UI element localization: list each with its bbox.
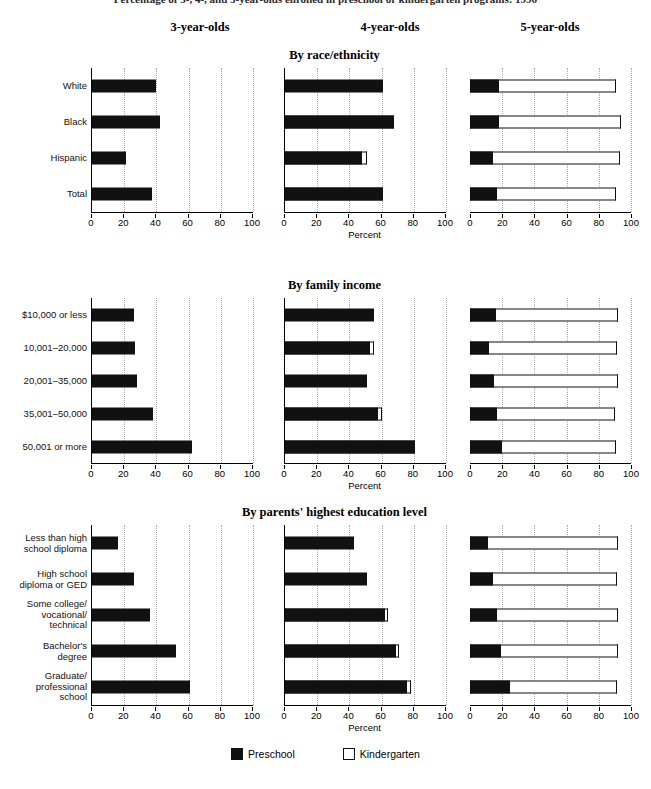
gridline [446, 68, 447, 212]
bar-row [470, 104, 631, 140]
row-label: 35,001–50,000 [24, 408, 87, 419]
plot-area [284, 525, 446, 706]
stacked-bar [470, 645, 618, 658]
axis-tick-label: 80 [594, 710, 605, 721]
axis-tick-label: 0 [281, 468, 286, 479]
axis-tick-label: 100 [437, 710, 453, 721]
bar-segment-preschool [92, 374, 137, 387]
gridline [631, 525, 632, 705]
bar-segment-preschool [285, 308, 374, 321]
axis-tick-label: 20 [497, 468, 508, 479]
stacked-bar [92, 440, 192, 453]
bar-segment-preschool [285, 407, 378, 420]
bar-row [285, 669, 446, 705]
axis-tick-label: 100 [437, 217, 453, 228]
bar-segment-preschool [470, 374, 494, 387]
bar-row [470, 633, 631, 669]
panel-education-5yo: 020406080100 [470, 525, 631, 706]
plot-area [470, 298, 631, 464]
gridline [446, 298, 447, 463]
panel-income-5yo: 020406080100 [470, 298, 631, 464]
bar-segment-preschool [470, 341, 489, 354]
gridline [253, 525, 254, 705]
bar-row: 50,001 or more [92, 430, 253, 463]
axis-tick-label: 100 [244, 217, 260, 228]
bar-segment-kindergarten [510, 681, 616, 694]
axis-tick-label: 80 [594, 468, 605, 479]
axis-tick-label: 60 [182, 710, 193, 721]
gridline [253, 298, 254, 463]
bar-segment-kindergarten [489, 341, 616, 354]
bar-row: High school diploma or GED [92, 561, 253, 597]
axis-tick-label: 60 [182, 468, 193, 479]
figure-title: Percentage of 3-, 4-, and 5-year-olds en… [0, 0, 651, 5]
axis-tick-label: 40 [343, 710, 354, 721]
stacked-bar [92, 308, 134, 321]
x-axis: 020406080100 [470, 707, 631, 729]
column-header-3yo: 3-year-olds [140, 20, 260, 35]
bar-segment-preschool [470, 188, 497, 201]
panel-race-4yo: 020406080100Percent [284, 68, 446, 213]
bar-segment-preschool [470, 573, 493, 586]
legend-swatch-kindergarten [343, 748, 355, 760]
axis-tick-label: 100 [623, 217, 639, 228]
axis-tick-label: 20 [497, 710, 508, 721]
axis-tick-label: 0 [281, 710, 286, 721]
axis-tick-label: 80 [408, 468, 419, 479]
stacked-bar [92, 374, 137, 387]
axis-tick-label: 0 [281, 217, 286, 228]
axis-tick-label: 100 [623, 468, 639, 479]
axis-tick-label: 60 [375, 217, 386, 228]
x-axis: 020406080100Percent [284, 214, 445, 236]
legend-swatch-preschool [231, 748, 243, 760]
axis-tick-label: 20 [118, 217, 129, 228]
bar-row [285, 331, 446, 364]
bar-row [470, 298, 631, 331]
row-label: High school diploma or GED [19, 569, 87, 590]
stacked-bar [470, 573, 617, 586]
bar-segment-preschool [92, 681, 190, 694]
bar-segment-kindergarten [382, 188, 384, 201]
legend-label-preschool: Preschool [248, 748, 295, 760]
bar-row [285, 298, 446, 331]
bar-row [285, 364, 446, 397]
bar-row [285, 561, 446, 597]
stacked-bar [470, 681, 617, 694]
bar-segment-kindergarten [502, 440, 616, 453]
bar-segment-kindergarten [370, 341, 373, 354]
panel-group-education: By parents' highest education level Less… [0, 505, 651, 735]
panel-education-3yo: Less than high school diplomaHigh school… [91, 525, 253, 706]
group-title: By race/ethnicity [0, 48, 651, 63]
row-label: Graduate/ professional school [36, 671, 87, 703]
row-label: $10,000 or less [22, 309, 87, 320]
bar-row [285, 633, 446, 669]
bar-segment-preschool [285, 609, 385, 622]
axis-tick-label: 40 [529, 710, 540, 721]
column-header-5yo: 5-year-olds [490, 20, 610, 35]
axis-tick-label: 100 [437, 468, 453, 479]
bar-row [285, 525, 446, 561]
stacked-bar [470, 188, 616, 201]
legend-item-preschool: Preschool [231, 748, 295, 760]
bar-segment-kindergarten [493, 573, 617, 586]
stacked-bar [92, 341, 135, 354]
row-label: Total [67, 189, 87, 200]
axis-tick-label: 80 [215, 710, 226, 721]
axis-tick-label: 80 [215, 468, 226, 479]
panel-race-3yo: WhiteBlackHispanicTotal020406080100 [91, 68, 253, 213]
axis-tick-label: 40 [529, 217, 540, 228]
stacked-bar [470, 374, 618, 387]
row-label: Hispanic [51, 153, 87, 164]
plot-area [284, 298, 446, 464]
bar-segment-preschool [92, 188, 152, 201]
bar-segment-preschool [470, 681, 510, 694]
bar-row [470, 176, 631, 212]
stacked-bar [470, 440, 616, 453]
axis-tick-label: 40 [150, 217, 161, 228]
row-label: 10,001–20,000 [24, 342, 87, 353]
bar-segment-kindergarten [501, 645, 619, 658]
bar-row [470, 331, 631, 364]
bar-row: White [92, 68, 253, 104]
panel-income-4yo: 020406080100Percent [284, 298, 446, 464]
stacked-bar [285, 341, 374, 354]
